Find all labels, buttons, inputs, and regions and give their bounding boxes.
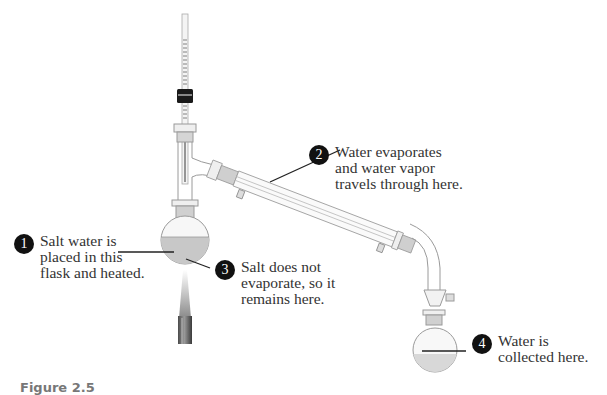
step-badge-2: 2 (309, 145, 329, 165)
step-badge-4: 4 (472, 334, 492, 354)
callout-1: 1 Salt water is placed in this flask and… (14, 233, 145, 281)
receiving-adapter (410, 224, 454, 325)
callout-2: 2 Water evaporates and water vapor trave… (309, 144, 463, 192)
boiling-flask (158, 216, 212, 267)
figure-caption: Figure 2.5 (20, 380, 95, 395)
callout-1-text: Salt water is placed in this flask and h… (40, 233, 145, 281)
thermometer (177, 14, 193, 184)
burner (178, 270, 192, 344)
step-badge-3: 3 (215, 260, 235, 280)
step-badge-1: 1 (14, 234, 34, 254)
callout-4: 4 Water is collected here. (472, 333, 588, 365)
callout-3-text: Salt does not evaporate, so it remains h… (241, 259, 335, 307)
callout-2-text: Water evaporates and water vapor travels… (335, 144, 463, 192)
callout-3: 3 Salt does not evaporate, so it remains… (215, 259, 335, 307)
callout-4-text: Water is collected here. (498, 333, 588, 365)
receiving-flask (410, 328, 460, 376)
